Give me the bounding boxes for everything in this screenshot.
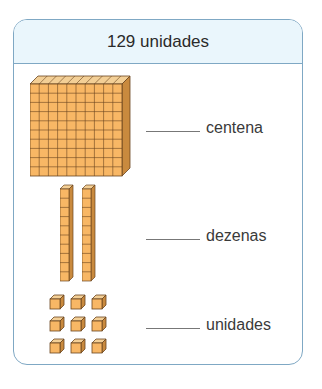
hundreds-answer-row: centena xyxy=(146,119,263,137)
unit-cubes-icon xyxy=(48,293,110,357)
tens-answer-row: dezenas xyxy=(146,227,267,245)
units-label: unidades xyxy=(206,316,271,334)
hundred-block-icon xyxy=(30,74,132,178)
card-title: 129 unidades xyxy=(14,20,302,64)
ten-rod-icon xyxy=(60,184,74,282)
units-answer-blank[interactable] xyxy=(146,327,200,329)
units-answer-row: unidades xyxy=(146,316,271,334)
tens-label: dezenas xyxy=(206,227,267,245)
hundreds-answer-blank[interactable] xyxy=(146,130,200,132)
hundreds-label: centena xyxy=(206,119,263,137)
ten-rod-icon xyxy=(82,184,96,282)
tens-answer-blank[interactable] xyxy=(146,238,200,240)
